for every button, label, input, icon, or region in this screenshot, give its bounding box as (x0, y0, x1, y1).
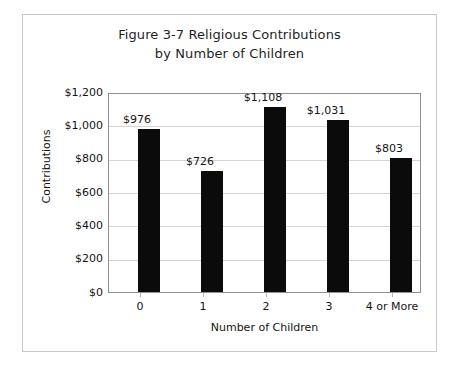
x-axis-tick-labels: 0 1 2 3 4 or More (108, 300, 421, 316)
x-tick-mark-3 (329, 293, 330, 297)
bar-category-2 (264, 107, 286, 292)
bar-value-label-1: $726 (165, 155, 235, 168)
y-tick-label-200: $200 (43, 252, 103, 265)
x-tick-mark-2 (266, 293, 267, 297)
chart-title-line-1: Figure 3-7 Religious Contributions (22, 25, 437, 44)
x-axis-title: Number of Children (108, 321, 421, 334)
bar-value-label-0: $976 (102, 113, 172, 126)
bar-category-4 (390, 158, 412, 292)
bar-value-label-2: $1,108 (228, 91, 298, 104)
chart-title: Figure 3-7 Religious Contributions by Nu… (22, 25, 437, 63)
y-tick-label-400: $400 (43, 219, 103, 232)
x-tick-mark-4 (392, 293, 393, 297)
x-tick-mark-0 (140, 293, 141, 297)
y-tick-label-1200: $1,200 (43, 86, 103, 99)
bar-value-label-4: $803 (354, 142, 424, 155)
bar-value-label-3: $1,031 (291, 104, 361, 117)
y-axis-title: Contributions (40, 117, 53, 217)
bar-category-3 (327, 120, 349, 292)
bar-category-0 (138, 129, 160, 292)
x-tick-mark-1 (203, 293, 204, 297)
x-tick-label-4: 4 or More (352, 300, 432, 313)
y-tick-label-0: $0 (43, 286, 103, 299)
chart-title-line-2: by Number of Children (22, 44, 437, 63)
bar-category-1 (201, 171, 223, 292)
